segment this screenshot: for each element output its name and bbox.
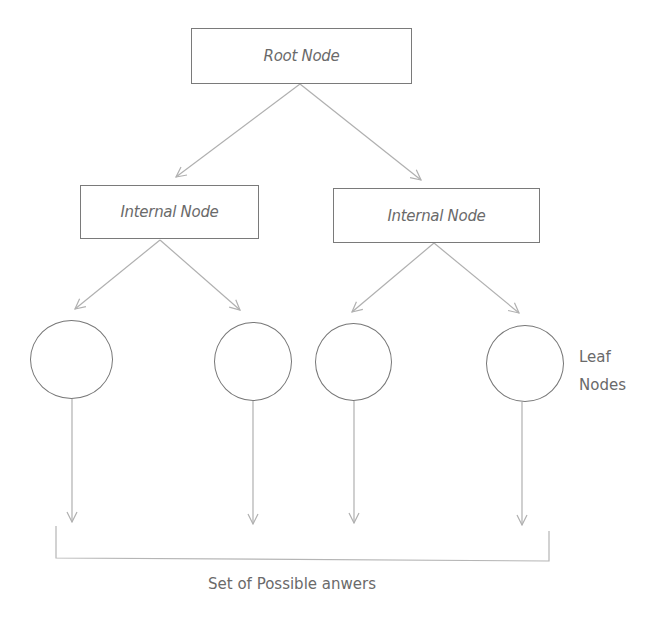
edge-internal-left-to-leaf-1 <box>75 240 160 309</box>
leaf-node-4 <box>486 325 564 402</box>
edge-internal-right-to-leaf-4 <box>434 243 519 313</box>
edge-internal-left-to-leaf-2 <box>160 240 240 310</box>
root-node: Root Node <box>191 28 412 84</box>
edge-internal-right-to-leaf-3 <box>352 243 434 312</box>
leaf-node-2 <box>214 322 292 401</box>
leaf-nodes-label: Leaf Nodes <box>579 343 626 399</box>
internal-node-right: Internal Node <box>333 188 540 243</box>
internal-node-right-label: Internal Node <box>387 207 485 225</box>
internal-node-left-label: Internal Node <box>120 203 218 221</box>
leaf-node-1 <box>30 320 113 399</box>
answers-label: Set of Possible anwers <box>208 575 376 593</box>
root-node-label: Root Node <box>264 47 340 65</box>
connector-layer <box>0 0 667 621</box>
leaf-nodes-label-line1: Leaf <box>579 343 626 371</box>
answers-bracket <box>56 526 549 561</box>
leaf-nodes-label-line2: Nodes <box>579 371 626 399</box>
edge-root-to-internal-right <box>300 84 421 180</box>
edge-root-to-internal-left <box>176 84 300 177</box>
internal-node-left: Internal Node <box>80 185 259 239</box>
leaf-node-3 <box>315 323 392 401</box>
